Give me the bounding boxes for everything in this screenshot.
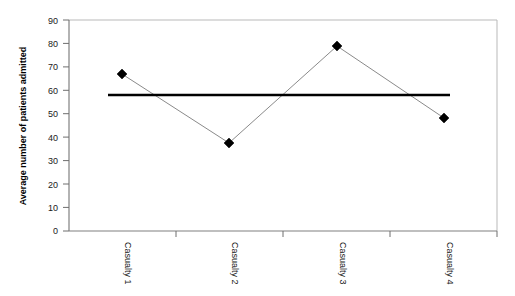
y-tick-label: 0 [53,226,58,236]
y-tick-label: 40 [48,133,58,143]
y-tick-label: 30 [48,156,58,166]
x-category-label-casualty-4: Casualty 4 [445,242,455,285]
x-category-label-casualty-2: Casualty 2 [230,242,240,285]
x-category-label-casualty-3: Casualty 3 [338,242,348,285]
line-chart: 90 80 70 60 50 40 30 20 10 0 Average num… [0,0,515,296]
y-tick-label: 20 [48,180,58,190]
chart-background [0,0,515,296]
y-tick-label: 90 [48,16,58,26]
y-axis-title: Average number of patients admitted [18,47,28,206]
y-tick-label: 10 [48,203,58,213]
y-tick-label: 50 [48,109,58,119]
x-category-label-casualty-1: Casualty 1 [123,242,133,285]
y-tick-label: 70 [48,62,58,72]
y-tick-label: 60 [48,86,58,96]
chart-container: 90 80 70 60 50 40 30 20 10 0 Average num… [0,0,515,296]
y-tick-label: 80 [48,39,58,49]
